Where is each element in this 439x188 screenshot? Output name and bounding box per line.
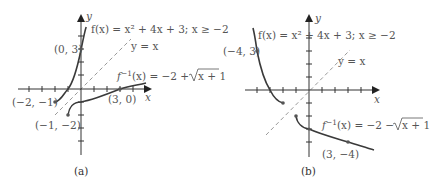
f-curve (55, 27, 86, 102)
identity-label: y = x (130, 40, 158, 52)
svg-text:f−1(x) = −2 −: f−1(x) = −2 − (321, 118, 394, 131)
x-axis-label: x (145, 91, 151, 103)
point-m1-m2 (294, 114, 298, 118)
point-m2-m1 (281, 101, 285, 105)
point-label-m1-m2: (−1, −2) (35, 119, 81, 131)
f-label: f(x) = x² + 4x + 3; x ≥ −2 (258, 29, 396, 41)
point-label-m4-3: (−4, 3) (223, 45, 260, 57)
point-label-3-0: (3, 0) (108, 93, 136, 105)
identity-label: y = x (337, 55, 365, 67)
point-3-m4 (346, 140, 350, 144)
svg-text:x + 1: x + 1 (198, 70, 226, 82)
finv-label: f−1(x) = −2 − x + 1 (321, 118, 430, 131)
finv-label: f−1(x) = −2 + x + 1 (116, 69, 226, 82)
panel-a: y x f(x) = x² + 4x + 3; x ≥ −2 y = x (0,… (12, 10, 229, 177)
x-axis-label: x (374, 93, 380, 105)
figure: y x f(x) = x² + 4x + 3; x ≥ −2 y = x (0,… (0, 0, 439, 188)
point-m1-m2 (66, 113, 70, 117)
point-0-m3 (308, 128, 311, 131)
point-label-m2-m1: (−2, −1) (12, 96, 58, 108)
y-axis-label: y (85, 10, 93, 22)
svg-text:x + 1: x + 1 (402, 119, 430, 131)
svg-text:f−1(x) = −2 +: f−1(x) = −2 + (116, 69, 189, 82)
f-label: f(x) = x² + 4x + 3; x ≥ −2 (91, 23, 229, 35)
y-axis-label: y (314, 12, 322, 24)
panel-b: y x f(x) = x² + 4x + 3; x ≥ −2 y = x (−4… (223, 12, 430, 177)
caption-a: (a) (74, 165, 88, 177)
point-label-0-3: (0, 3) (54, 43, 82, 55)
point-label-3-m4: (3, −4) (322, 148, 359, 160)
point-3-0 (118, 87, 122, 91)
caption-b: (b) (301, 165, 316, 177)
